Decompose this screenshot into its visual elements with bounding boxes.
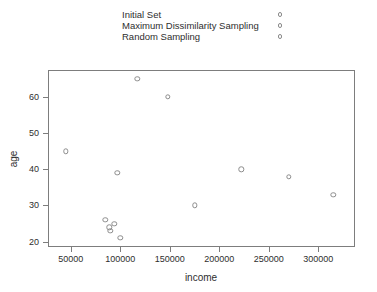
x-axis-tick xyxy=(120,247,121,252)
y-axis-tick xyxy=(43,205,48,206)
x-axis-tick xyxy=(71,247,72,252)
open-circle-icon xyxy=(278,34,282,38)
legend-marker-row xyxy=(278,20,282,31)
x-axis-tick-label: 250000 xyxy=(254,254,284,264)
y-axis-tick-label: 60 xyxy=(29,92,39,102)
y-axis-tick xyxy=(43,169,48,170)
x-axis-tick xyxy=(219,247,220,252)
y-axis-tick-label: 50 xyxy=(29,128,39,138)
x-axis-tick xyxy=(269,247,270,252)
x-axis-tick-label: 300000 xyxy=(303,254,333,264)
x-axis-title: income xyxy=(185,272,217,283)
y-axis-title: age xyxy=(8,151,19,168)
legend-markers xyxy=(278,9,282,42)
x-axis-tick-label: 50000 xyxy=(58,254,83,264)
x-axis-tick xyxy=(318,247,319,252)
scatter-plot: Initial Set Maximum Dissimilarity Sampli… xyxy=(0,0,377,292)
y-axis-tick-label: 30 xyxy=(29,200,39,210)
x-axis-tick-label: 100000 xyxy=(105,254,135,264)
open-circle-icon xyxy=(278,23,282,27)
legend-item-random-sampling: Random Sampling xyxy=(122,31,259,42)
y-axis-tick-label: 40 xyxy=(29,164,39,174)
legend-item-maximum-dissimilarity-sampling: Maximum Dissimilarity Sampling xyxy=(122,20,259,31)
x-axis-tick-label: 150000 xyxy=(155,254,185,264)
y-axis-tick-label: 20 xyxy=(29,237,39,247)
legend-labels: Initial Set Maximum Dissimilarity Sampli… xyxy=(122,9,259,42)
y-axis-tick xyxy=(43,97,48,98)
x-axis-tick-label: 200000 xyxy=(204,254,234,264)
open-circle-icon xyxy=(278,12,282,16)
legend-item-initial-set: Initial Set xyxy=(122,9,259,20)
legend-marker-row xyxy=(278,9,282,20)
y-axis-tick xyxy=(43,133,48,134)
x-axis-tick xyxy=(170,247,171,252)
legend-marker-row xyxy=(278,31,282,42)
y-axis-tick xyxy=(43,242,48,243)
plot-frame xyxy=(48,70,355,247)
